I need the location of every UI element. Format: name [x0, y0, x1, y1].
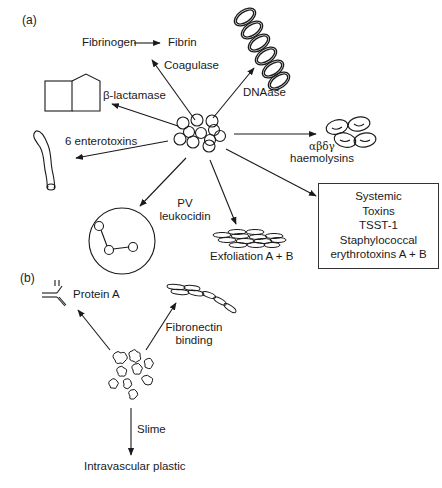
- fibronectin-chain-icon: [167, 284, 237, 314]
- coagulase-label: Coagulase: [164, 59, 219, 72]
- fibrinogen-label: Fibrinogen: [82, 36, 136, 49]
- intestine-icon: [34, 131, 55, 190]
- exfoliation-label: Exfoliation A + B: [210, 250, 293, 263]
- slime-cluster-icon: [109, 350, 154, 400]
- slime-label: Slime: [137, 423, 166, 436]
- cocci-cluster-icon: [174, 114, 226, 152]
- dnaase-label: DNAase: [243, 86, 286, 99]
- enterotoxins-label: 6 enterotoxins: [65, 135, 137, 148]
- arrow-protein-a: [78, 310, 110, 350]
- dna-helix-icon: [231, 4, 293, 93]
- pv-label: PV: [155, 197, 215, 210]
- intravascular-plastic-label: Intravascular plastic: [84, 460, 186, 473]
- binding-label: binding: [160, 334, 228, 347]
- toxins-line: Toxins: [319, 204, 438, 219]
- haemolysins-label: haemolysins: [283, 152, 361, 165]
- erythrotoxins-line: erythrotoxins A + B: [319, 247, 438, 262]
- panel-b-label: (b): [20, 272, 35, 285]
- leukocyte-cell-icon: [89, 208, 155, 274]
- leukocidin-label: leukocidin: [150, 210, 220, 223]
- beta-lactamase-label: β-lactamase: [103, 89, 166, 102]
- antibody-icon: [42, 280, 66, 306]
- staphylococcal-line: Staphylococcal: [319, 233, 438, 248]
- panel-a-label: (a): [22, 14, 37, 27]
- systemic-toxins-box: Systemic Toxins TSST-1 Staphylococcal er…: [318, 183, 439, 269]
- systemic-line: Systemic: [319, 189, 438, 204]
- beta-lactam-ring-icon: [45, 74, 100, 111]
- protein-a-label: Protein A: [73, 288, 120, 301]
- tsst1-line: TSST-1: [319, 218, 438, 233]
- arrow-beta-lactamase: [112, 104, 178, 126]
- fibrin-label: Fibrin: [168, 36, 197, 49]
- fibronectin-label: Fibronectin: [160, 321, 228, 334]
- skin-cells-icon: [213, 230, 286, 248]
